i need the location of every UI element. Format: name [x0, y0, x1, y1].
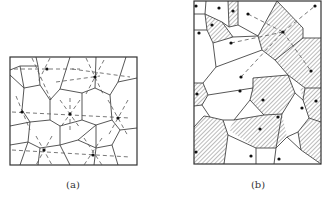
voronoi-edge [234, 100, 250, 120]
site-point [45, 67, 48, 70]
hatched-cell [298, 118, 321, 164]
site-point [261, 98, 264, 101]
site-point [277, 157, 280, 160]
voronoi-edge [22, 88, 24, 110]
voronoi-edge [208, 88, 253, 95]
site-point [313, 4, 316, 7]
delaunay-dashed-edge [32, 58, 52, 102]
voronoi-edge [213, 43, 216, 67]
delaunay-dashed-edge [84, 138, 102, 165]
site-point [197, 31, 200, 34]
site-point [194, 150, 197, 153]
hatched-cell [250, 75, 295, 115]
site-point [239, 75, 242, 78]
site-point [249, 154, 252, 157]
voronoi-edge [40, 145, 60, 148]
delaunay-dashed-edge [12, 150, 130, 157]
voronoi-edge [82, 88, 95, 93]
site-point [276, 115, 279, 118]
site-point [20, 110, 23, 113]
site-point [229, 41, 232, 44]
site-point [217, 6, 220, 9]
voronoi-edge [78, 125, 96, 140]
site-point [194, 4, 197, 7]
site-point [258, 127, 261, 130]
voronoi-edge [60, 145, 70, 165]
panel-b-voronoi-diagram [194, 1, 321, 164]
voronoi-edge [205, 1, 206, 14]
voronoi-edge [40, 85, 50, 100]
voronoi-edge [82, 120, 96, 125]
site-point [195, 92, 198, 95]
voronoi-edge [287, 132, 298, 137]
site-point [116, 116, 119, 119]
voronoi-edge [238, 25, 258, 36]
voronoi-edge [30, 120, 50, 122]
voronoi-edge [38, 148, 40, 165]
site-point [309, 69, 312, 72]
voronoi-edge [20, 142, 28, 165]
voronoi-edge [95, 88, 110, 95]
voronoi-edge [120, 128, 137, 130]
voronoi-edge [60, 140, 78, 145]
voronoi-edge [110, 82, 118, 95]
voronoi-edge [274, 148, 276, 164]
panel-frame [10, 57, 137, 165]
voronoi-edge [78, 140, 96, 148]
voronoi-figure [0, 0, 327, 201]
voronoi-edge [24, 85, 40, 88]
panel-a-voronoi-diagram [10, 57, 137, 165]
voronoi-edge [50, 120, 60, 126]
site-point [281, 30, 284, 33]
hatched-cell [228, 1, 238, 27]
voronoi-edge [110, 95, 112, 120]
voronoi-edge [118, 57, 126, 82]
voronoi-edge [202, 105, 210, 117]
voronoi-edge [96, 145, 112, 148]
voronoi-edge [60, 89, 82, 93]
site-point [314, 99, 317, 102]
hatched-cell [194, 116, 228, 164]
voronoi-edge [203, 67, 216, 83]
caption-b: (b) [251, 179, 265, 190]
voronoi-edge [50, 89, 60, 100]
site-point [210, 23, 213, 26]
voronoi-edge [112, 145, 118, 165]
site-point [231, 9, 234, 12]
caption-a: (a) [66, 179, 80, 190]
site-point [246, 12, 249, 15]
hatched-cell [300, 88, 321, 122]
voronoi-edge [233, 36, 258, 37]
voronoi-edge [118, 78, 137, 82]
voronoi-edge [96, 120, 112, 125]
voronoi-edge [60, 57, 70, 89]
voronoi-edge [216, 50, 262, 67]
site-point [300, 106, 303, 109]
voronoi-edge [28, 142, 40, 148]
voronoi-edge [112, 130, 120, 145]
voronoi-edge [94, 148, 96, 165]
site-point [68, 112, 71, 115]
site-point [238, 89, 241, 92]
site-point [42, 148, 45, 151]
voronoi-edge [36, 57, 38, 66]
voronoi-edge [10, 142, 28, 145]
site-point [91, 153, 94, 156]
site-point [93, 75, 96, 78]
